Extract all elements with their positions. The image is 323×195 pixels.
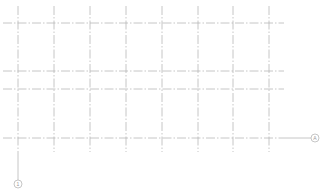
- grid-bubble-label: 1: [17, 181, 20, 187]
- vertical-gridlines: [18, 6, 269, 152]
- grid-drawing-canvas: A1: [0, 0, 323, 195]
- grid-bubble-a: A: [284, 134, 319, 142]
- horizontal-gridlines: [3, 23, 284, 138]
- grid-markers: A1: [14, 134, 319, 188]
- grid-bubble-1: 1: [14, 152, 22, 188]
